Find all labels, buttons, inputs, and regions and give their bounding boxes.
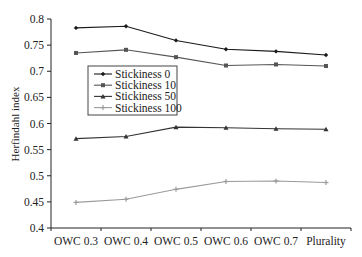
- x-tick-label: OWC 0.3: [54, 235, 98, 247]
- y-tick-label: 0.65: [24, 91, 44, 103]
- y-tick-label: 0.55: [24, 144, 44, 156]
- y-tick-label: 0.4: [30, 222, 45, 234]
- series-stickiness-100: [74, 178, 329, 204]
- series-stickiness-10: [74, 48, 328, 68]
- y-tick-label: 0.5: [30, 170, 45, 182]
- y-axis: 0.40.450.50.550.60.650.70.750.8: [24, 13, 51, 234]
- x-tick-label: OWC 0.7: [254, 235, 298, 247]
- legend: Stickiness 0Stickiness 10Stickiness 50St…: [88, 66, 182, 115]
- x-tick-label: OWC 0.4: [104, 235, 148, 247]
- legend-label: Stickiness 10: [115, 79, 176, 91]
- x-tick-label: OWC 0.5: [154, 235, 198, 247]
- x-axis: OWC 0.3OWC 0.4OWC 0.5OWC 0.6OWC 0.7Plura…: [51, 228, 351, 248]
- legend-label: Stickiness 50: [115, 90, 176, 102]
- x-tick-label: Plurality: [306, 235, 346, 248]
- x-tick-label: OWC 0.6: [204, 235, 248, 247]
- y-tick-label: 0.75: [24, 39, 44, 51]
- series-stickiness-0: [74, 24, 328, 57]
- y-tick-label: 0.6: [30, 118, 45, 130]
- y-tick-label: 0.45: [24, 196, 44, 208]
- legend-label: Stickiness 100: [115, 102, 182, 114]
- line-chart: 0.40.450.50.550.60.650.70.750.8 OWC 0.3O…: [0, 0, 362, 257]
- series-stickiness-50: [74, 125, 329, 141]
- y-axis-label: Herfindahl index: [9, 86, 21, 161]
- y-tick-label: 0.8: [30, 13, 45, 25]
- y-tick-label: 0.7: [30, 65, 45, 77]
- legend-label: Stickiness 0: [115, 68, 171, 80]
